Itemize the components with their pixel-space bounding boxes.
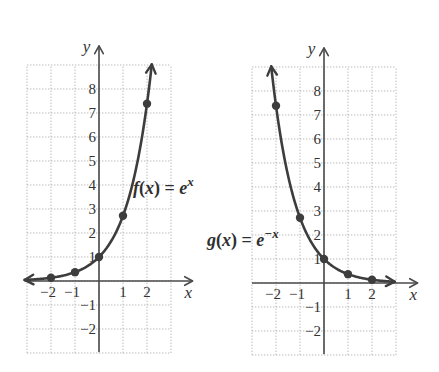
y-axis-label: y <box>306 39 316 58</box>
y-tick-label: 7 <box>89 105 97 121</box>
data-point <box>272 101 280 109</box>
x-axis-label: x <box>184 283 193 302</box>
y-tick-label: −2 <box>80 321 96 337</box>
data-point <box>143 99 151 107</box>
y-tick-label: 6 <box>89 129 97 145</box>
y-tick-label: 2 <box>314 227 322 243</box>
x-tick-label: 1 <box>344 286 352 302</box>
y-tick-label: 3 <box>314 203 322 219</box>
y-axis-label: y <box>81 37 91 56</box>
data-point <box>368 276 376 284</box>
y-tick-label: −1 <box>80 297 96 313</box>
y-tick-label: 7 <box>314 107 322 123</box>
function-label: f(x) = ex <box>133 174 194 199</box>
data-point <box>95 253 103 261</box>
y-tick-label: 4 <box>314 179 322 195</box>
y-tick-label: 2 <box>89 225 97 241</box>
y-tick-label: 6 <box>314 131 322 147</box>
data-point <box>47 274 55 282</box>
y-tick-label: 3 <box>89 201 97 217</box>
x-tick-label: 1 <box>119 284 127 300</box>
y-tick-label: 5 <box>89 153 97 169</box>
y-tick-label: 4 <box>89 177 97 193</box>
y-tick-label: 8 <box>89 81 97 97</box>
x-tick-label: 2 <box>143 284 151 300</box>
data-point <box>119 212 127 220</box>
x-tick-label: −2 <box>265 286 281 302</box>
y-tick-label: −2 <box>305 323 321 339</box>
background <box>0 0 439 372</box>
x-tick-label: −1 <box>289 286 305 302</box>
x-tick-label: −2 <box>40 284 56 300</box>
y-tick-label: 8 <box>314 83 322 99</box>
exponential-graphs-figure: xy−2−112−2−112345678f(x) = ex xy−2−112−2… <box>0 0 439 372</box>
x-tick-label: 2 <box>368 286 376 302</box>
data-point <box>344 270 352 278</box>
y-tick-label: 5 <box>314 155 322 171</box>
x-axis-label: x <box>409 285 418 304</box>
data-point <box>71 268 79 276</box>
y-tick-label: −1 <box>305 299 321 315</box>
data-point <box>296 214 304 222</box>
data-point <box>320 255 328 263</box>
x-tick-label: −1 <box>64 284 80 300</box>
